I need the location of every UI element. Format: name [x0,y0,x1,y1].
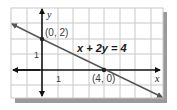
graph-shadow-right [163,12,167,103]
coordinate-graph: y x (0, 2) (4, 0) 1 1 x + 2y = 4 [0,0,177,110]
equation-label: x + 2y = 4 [76,42,127,54]
point-label-y-intercept: (0, 2) [45,27,68,38]
y-axis-label: y [46,9,52,20]
point-label-x-intercept: (4, 0) [92,73,115,84]
point-y-intercept [40,37,44,41]
point-x-intercept [102,68,106,72]
y-tick-label: 1 [34,50,39,60]
x-axis-label: x [154,73,160,84]
x-tick-label: 1 [56,74,61,84]
graph-shadow-bottom [15,98,167,103]
